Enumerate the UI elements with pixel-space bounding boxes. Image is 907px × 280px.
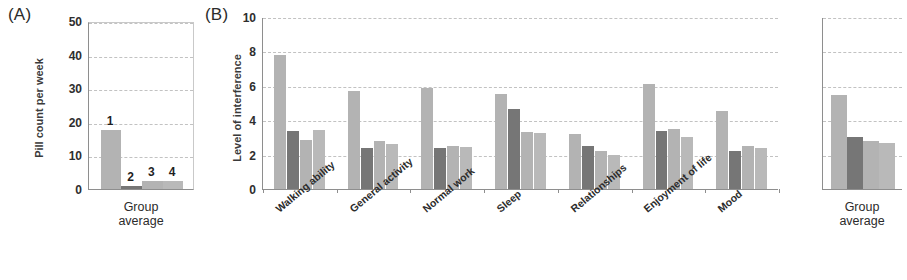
y-tick-label: 0 <box>48 184 82 196</box>
category-label: Sleep <box>494 187 523 214</box>
panel-a-group-average-label: Group average <box>88 200 194 229</box>
y-tick-label: 2 <box>222 150 256 162</box>
bar <box>534 133 546 189</box>
bar <box>508 109 520 189</box>
y-tick-label: 10 <box>48 150 82 162</box>
bar <box>348 91 360 189</box>
bar-value-label: 1 <box>100 115 121 127</box>
x-tick-mark <box>558 189 559 193</box>
bar <box>495 94 507 189</box>
bar-value-label: 4 <box>162 166 183 178</box>
bar <box>421 88 433 189</box>
y-tick-label: 0 <box>222 184 256 196</box>
y-tick-label: 4 <box>222 115 256 127</box>
x-tick-mark <box>705 189 706 193</box>
bar <box>831 95 847 189</box>
bar <box>434 148 446 189</box>
x-tick-mark <box>410 189 411 193</box>
y-tick-label: 8 <box>222 46 256 58</box>
bar <box>863 141 879 189</box>
panel-b-group-average-label: Group average <box>812 200 907 229</box>
y-tick-label: 30 <box>48 83 82 95</box>
bar <box>521 132 533 189</box>
y-tick-label: 20 <box>48 117 82 129</box>
x-tick-mark <box>779 189 780 193</box>
bar <box>163 181 184 189</box>
bar <box>361 148 373 189</box>
bar <box>847 137 863 189</box>
y-tick-label: 40 <box>48 50 82 62</box>
bar <box>142 181 163 189</box>
bar <box>656 131 668 189</box>
panel-a-y-axis-label: Pill count per week <box>33 43 45 173</box>
x-tick-mark <box>263 189 264 193</box>
panel-b-group-average-plot-area <box>822 18 902 190</box>
bar <box>729 151 741 189</box>
bar <box>643 84 655 189</box>
bar-value-label: 2 <box>120 171 141 183</box>
y-tick-label: 10 <box>222 12 256 24</box>
bar <box>755 148 767 189</box>
bar <box>101 130 122 189</box>
panel-a-plot-area <box>88 22 194 190</box>
y-tick-label: 6 <box>222 81 256 93</box>
bar <box>582 146 594 189</box>
panel-b-group-average-bars <box>823 18 902 189</box>
x-tick-mark <box>337 189 338 193</box>
bar-value-label: 3 <box>141 166 162 178</box>
bar <box>569 134 581 189</box>
x-tick-mark <box>632 189 633 193</box>
bar <box>742 146 754 189</box>
bar <box>121 186 142 189</box>
panel-a-tag: (A) <box>8 5 31 25</box>
y-tick-label: 50 <box>48 16 82 28</box>
bar <box>274 55 286 189</box>
x-tick-mark <box>484 189 485 193</box>
bar <box>716 111 728 189</box>
category-label: Mood <box>715 187 744 214</box>
bar <box>879 143 895 189</box>
panel-a-bars <box>89 23 193 189</box>
bar <box>287 131 299 189</box>
